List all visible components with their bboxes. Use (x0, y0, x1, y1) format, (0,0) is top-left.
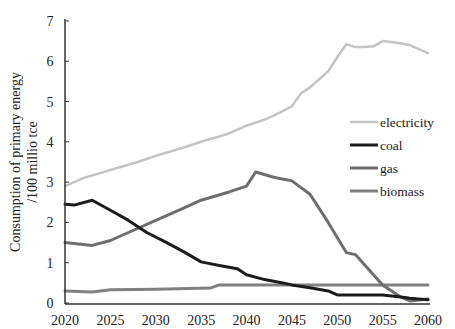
legend-label-coal: coal (380, 138, 403, 153)
legend-label-gas: gas (380, 161, 398, 176)
x-tick-label: 2025 (96, 313, 124, 328)
y-tick-label: 5 (47, 95, 54, 110)
x-tick-label: 2045 (278, 313, 306, 328)
x-ticks: 202020252030203520402045205020552060 (51, 313, 442, 328)
legend-label-biomass: biomass (380, 184, 424, 199)
y-tick-label: 0 (47, 296, 54, 311)
y-tick-label: 2 (47, 215, 54, 230)
x-tick-label: 2050 (323, 313, 351, 328)
y-tick-label: 1 (47, 256, 54, 271)
y-axis-title-line-2: /100 millio tce (25, 121, 40, 203)
x-tick-label: 2020 (51, 313, 79, 328)
y-tick-label: 3 (47, 175, 54, 190)
x-tick-label: 2030 (142, 313, 170, 328)
x-tick-label: 2035 (187, 313, 215, 328)
plot-lines (65, 41, 428, 301)
y-tick-label: 6 (47, 54, 54, 69)
line-chart: 01234567 2020202520302035204020452050205… (0, 0, 455, 329)
x-tick-label: 2060 (414, 313, 442, 328)
x-tick-label: 2055 (369, 313, 397, 328)
legend: electricitycoalgasbiomass (350, 115, 434, 199)
y-tick-label: 7 (47, 14, 54, 29)
y-axis-title: Consumption of primary energy /100 milli… (8, 72, 40, 252)
y-tick-label: 4 (47, 135, 54, 150)
series-line-electricity (65, 41, 428, 186)
series-line-biomass (65, 285, 428, 292)
x-tick-label: 2040 (233, 313, 261, 328)
y-axis-title-line-1: Consumption of primary energy (8, 72, 23, 252)
legend-label-electricity: electricity (380, 115, 434, 130)
